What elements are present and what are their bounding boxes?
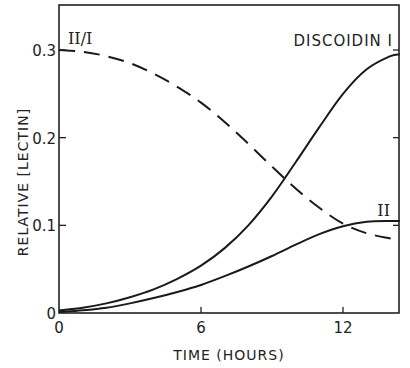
x-tick-label: 12 bbox=[333, 319, 352, 337]
axis-ticks: 061200.10.20.3 bbox=[32, 42, 399, 337]
series-label-discoidin-i: DISCOIDIN I bbox=[293, 32, 393, 50]
line-chart: 061200.10.20.3 TIME (HOURS) RELATIVE [LE… bbox=[0, 0, 410, 368]
y-tick-label: 0 bbox=[46, 305, 56, 323]
x-axis-title: TIME (HOURS) bbox=[172, 347, 284, 363]
series-line-discoidin-i bbox=[59, 54, 400, 310]
series-label-ratio: II/I bbox=[68, 29, 92, 48]
y-tick-label: 0.1 bbox=[32, 217, 56, 235]
y-axis-title: RELATIVE [LECTIN] bbox=[15, 108, 31, 256]
plot-border bbox=[59, 5, 399, 313]
series-line-ii bbox=[59, 221, 400, 312]
y-tick-label: 0.3 bbox=[32, 42, 56, 60]
y-tick-label: 0.2 bbox=[32, 130, 56, 148]
series-line-ii-i bbox=[59, 50, 400, 240]
data-series bbox=[59, 50, 400, 312]
x-tick-label: 6 bbox=[196, 319, 206, 337]
series-label-ii: II bbox=[377, 201, 390, 220]
plot-frame bbox=[59, 5, 399, 313]
